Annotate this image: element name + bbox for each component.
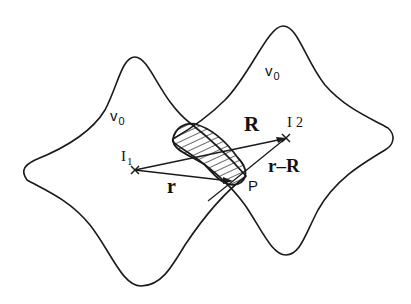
label-v0-right: v0 [265,63,280,78]
label-P: P [248,178,258,193]
label-I1: I1 [121,149,133,164]
label-r-minus-R: r–R [268,156,300,175]
label-r: r [167,176,176,196]
label-R: R [244,114,259,135]
label-I2: I2 [287,115,303,130]
label-v0-left: v0 [110,108,125,123]
diagram-canvas: v0 v0 I1 I2 R r r–R P [0,0,411,304]
diagram-svg [0,0,411,304]
